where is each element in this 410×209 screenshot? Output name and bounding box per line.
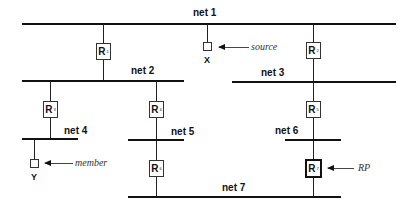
net-7-line [128, 196, 341, 198]
net-5-line [128, 139, 184, 141]
host-x [203, 42, 212, 51]
member-annotation: member [75, 157, 107, 168]
link-net2-r4 [156, 81, 157, 101]
net-4-line [22, 138, 78, 140]
net-6-label: net 6 [275, 125, 298, 136]
router-r7-rp: R7 [305, 159, 322, 178]
host-y-label: Y [31, 172, 37, 182]
member-arrow-icon [45, 163, 73, 164]
net-7-label: net 7 [222, 182, 245, 193]
router-r5: R5 [306, 101, 321, 118]
source-annotation: source [251, 41, 277, 52]
rp-annotation: RP [358, 162, 370, 173]
link-r7-net7 [313, 178, 314, 196]
link-r6-net7 [156, 177, 157, 196]
net-2-line [22, 80, 184, 82]
net-4-label: net 4 [64, 125, 87, 136]
net-3-label: net 3 [261, 67, 284, 78]
net-2-label: net 2 [131, 65, 154, 76]
net-1-line [22, 23, 396, 25]
link-r3-net4 [50, 118, 51, 139]
link-net1-x [207, 24, 208, 42]
router-r1: R1 [96, 43, 111, 60]
router-r6: R6 [149, 160, 164, 177]
link-net4-y [34, 139, 35, 159]
host-x-label: X [204, 55, 210, 65]
link-net1-r2 [313, 24, 314, 42]
router-r3: R3 [43, 101, 58, 118]
net-5-label: net 5 [171, 126, 194, 137]
router-r4: R4 [149, 101, 164, 118]
host-y [30, 159, 39, 168]
router-r2: R2 [306, 42, 321, 59]
link-net3-r5 [313, 82, 314, 101]
source-arrow-icon [219, 47, 249, 48]
net-3-line [232, 81, 396, 83]
link-r2-net3 [313, 59, 314, 82]
net-6-line [285, 139, 341, 141]
link-r1-net2 [103, 60, 104, 81]
rp-arrow-icon [328, 168, 354, 169]
net-1-label: net 1 [193, 7, 216, 18]
link-net2-r3 [50, 81, 51, 101]
link-net1-r1 [103, 24, 104, 43]
